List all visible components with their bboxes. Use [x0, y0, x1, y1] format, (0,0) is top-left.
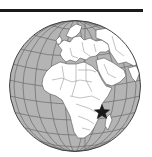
globe-map — [0, 0, 152, 157]
